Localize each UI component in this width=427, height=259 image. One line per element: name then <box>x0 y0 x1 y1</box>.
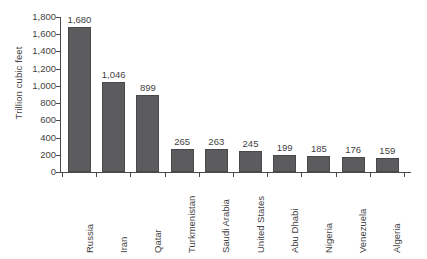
x-axis-category-label: Abu Dhabi <box>289 209 300 253</box>
x-axis-category-label: United States <box>255 196 266 253</box>
y-axis-tick-label: 1,000 <box>22 81 56 91</box>
y-axis-tick-label: 1,200 <box>22 64 56 74</box>
x-axis-tick-mark <box>199 173 200 177</box>
x-axis-category-label: Saudi Arabia <box>220 199 231 253</box>
y-axis-tick-label: 800 <box>22 98 56 108</box>
x-axis-tick-mark <box>301 173 302 177</box>
y-axis-tick-mark <box>56 138 60 139</box>
x-axis-category-label: Turkmenistan <box>186 196 197 253</box>
bar-value-label: 159 <box>367 145 407 156</box>
x-axis-tick-mark <box>130 173 131 177</box>
x-axis-tick-mark <box>370 173 371 177</box>
y-axis-tick-label: 400 <box>22 133 56 143</box>
x-axis-category-label: Nigeria <box>323 223 334 253</box>
x-axis-tick-mark <box>165 173 166 177</box>
x-axis-tick-mark <box>62 173 63 177</box>
bar <box>239 151 262 172</box>
x-axis-tick-mark <box>96 173 97 177</box>
y-axis-tick-labels: 1,8001,6001,4001,2001,0008006004002000 <box>22 0 56 259</box>
y-axis-tick-mark <box>56 103 60 104</box>
x-axis-category-label: Algeria <box>391 223 402 253</box>
bar-chart: Trillion cubic feet 1,8001,6001,4001,200… <box>0 0 427 259</box>
y-axis-line <box>60 17 61 173</box>
y-axis-tick-mark <box>56 51 60 52</box>
bar-value-label: 899 <box>128 82 168 93</box>
bar <box>171 149 194 172</box>
y-axis-tick-label: 1,600 <box>22 29 56 39</box>
x-axis-tick-mark <box>233 173 234 177</box>
bar <box>376 158 399 172</box>
y-axis-tick-label: 1,800 <box>22 12 56 22</box>
y-axis-tick-label: 0 <box>22 167 56 177</box>
y-axis-tick-label: 200 <box>22 150 56 160</box>
bar <box>273 155 296 172</box>
bar <box>205 149 228 172</box>
x-axis-category-label: Venezuela <box>357 209 368 253</box>
bar-value-label: 1,680 <box>60 14 100 25</box>
y-axis-tick-mark <box>56 172 60 173</box>
y-axis-tick-mark <box>56 155 60 156</box>
bar <box>68 27 91 172</box>
y-axis-tick-mark <box>56 69 60 70</box>
bar <box>307 156 330 172</box>
x-axis-tick-mark <box>404 173 405 177</box>
bar <box>102 82 125 172</box>
y-axis-tick-label: 1,400 <box>22 46 56 56</box>
bar <box>342 157 365 172</box>
y-axis-tick-label: 600 <box>22 115 56 125</box>
x-axis-tick-mark <box>267 173 268 177</box>
x-axis-category-label: Iran <box>118 237 129 253</box>
x-axis-category-label: Russia <box>84 224 95 253</box>
y-axis-tick-mark <box>56 34 60 35</box>
x-axis-line <box>60 172 411 173</box>
bar-value-label: 1,046 <box>94 69 134 80</box>
y-axis-tick-mark <box>56 86 60 87</box>
x-axis-category-label: Qatar <box>152 229 163 253</box>
x-axis-tick-mark <box>336 173 337 177</box>
y-axis-tick-mark <box>56 120 60 121</box>
bar <box>136 95 159 172</box>
